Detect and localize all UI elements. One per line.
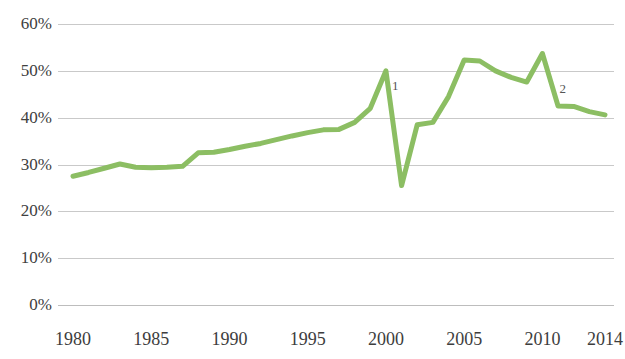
x-axis-tick-label: 1990 bbox=[211, 330, 247, 348]
plot-area: 60%50%40%30%20%10%0% 1980198519901995200… bbox=[0, 0, 625, 359]
gridline bbox=[58, 118, 614, 119]
y-axis-tick-label: 60% bbox=[0, 15, 52, 32]
x-axis-tick-label: 2000 bbox=[368, 330, 404, 348]
gridline bbox=[58, 71, 614, 72]
x-axis-tick-label: 2005 bbox=[446, 330, 482, 348]
y-axis-tick-label: 0% bbox=[0, 296, 52, 313]
x-axis-tick-label: 1980 bbox=[55, 330, 91, 348]
chart-container: 60%50%40%30%20%10%0% 1980198519901995200… bbox=[0, 0, 625, 359]
gridline bbox=[58, 211, 614, 212]
chart-annotation: 1 bbox=[392, 78, 399, 91]
gridline bbox=[58, 305, 614, 306]
y-axis-tick-label: 50% bbox=[0, 62, 52, 79]
x-axis-tick-label: 1985 bbox=[133, 330, 169, 348]
chart-annotation: 2 bbox=[560, 81, 567, 94]
y-axis-tick-label: 10% bbox=[0, 249, 52, 266]
y-axis-tick-label: 40% bbox=[0, 109, 52, 126]
gridline bbox=[58, 165, 614, 166]
x-axis-tick-label: 1995 bbox=[290, 330, 326, 348]
x-axis-tick-label: 2010 bbox=[524, 330, 560, 348]
y-axis-tick-label: 20% bbox=[0, 202, 52, 219]
series-line bbox=[73, 54, 605, 186]
y-axis-tick-label: 30% bbox=[0, 156, 52, 173]
gridline bbox=[58, 258, 614, 259]
gridline bbox=[58, 24, 614, 25]
x-axis-tick-label: 2014 bbox=[587, 330, 623, 348]
